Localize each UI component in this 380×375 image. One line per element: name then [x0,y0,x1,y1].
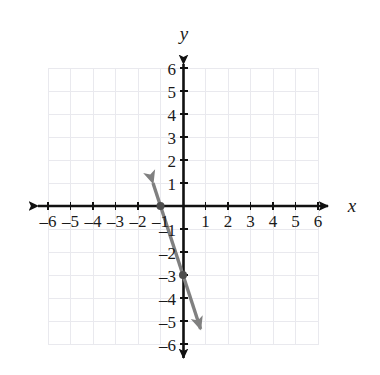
x-tick-labels: –6 –5 –4 –3 –2 –1 1 2 3 4 5 6 [39,212,323,231]
y-tick-label: –1 [158,221,176,240]
y-tick-label: –2 [158,244,176,263]
x-axis-label: x [347,195,357,216]
y-tick-label: –5 [158,313,176,332]
y-tick-label: 1 [168,175,177,194]
x-tick-label: –6 [39,212,57,231]
y-tick-label: 3 [168,129,177,148]
coordinate-plane-svg: –6 –5 –4 –3 –2 –1 1 2 3 4 5 6 6 5 4 3 2 … [0,0,380,375]
x-tick-label: 2 [224,212,233,231]
y-tick-label: 4 [168,106,177,125]
y-tick-label: 2 [168,152,177,171]
x-tick-label: 4 [269,212,278,231]
x-tick-label: 5 [291,212,300,231]
y-tick-label: –4 [158,290,177,309]
x-tick-label: 1 [201,212,210,231]
x-tick-label: 3 [246,212,255,231]
x-tick-label: –5 [61,212,79,231]
point-x-intercept [157,202,165,210]
y-tick-label: –3 [158,267,176,286]
x-tick-label: –4 [84,212,103,231]
y-tick-label: 5 [168,83,177,102]
graph-canvas: –6 –5 –4 –3 –2 –1 1 2 3 4 5 6 6 5 4 3 2 … [0,0,380,375]
y-tick-label: –6 [158,336,176,355]
x-tick-label: –3 [106,212,124,231]
y-axis-label: y [178,23,189,44]
y-tick-label: 6 [168,60,177,79]
x-tick-label: –2 [129,212,147,231]
point-y-intercept [179,271,187,279]
axis-lines [38,64,328,358]
x-tick-label: 6 [314,212,323,231]
